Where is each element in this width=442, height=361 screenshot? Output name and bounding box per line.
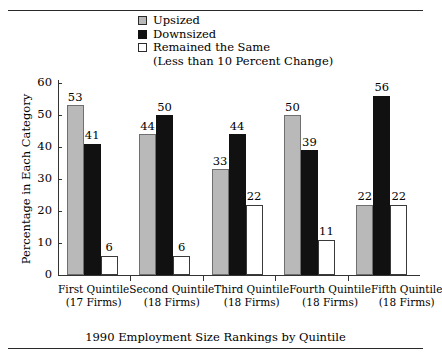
bar-remained-the-same[interactable] — [390, 205, 407, 275]
bar-group: 225622 — [356, 80, 407, 275]
x-axis-label-firms: (18 Firms) — [214, 296, 289, 309]
x-axis-label-name: First Quintile — [58, 283, 129, 296]
bar-value-label: 6 — [178, 242, 185, 254]
x-tick-mark-4 — [348, 276, 349, 281]
bar-value-label: 22 — [391, 191, 406, 203]
y-tick-label-40: 40 — [37, 141, 52, 153]
legend-label-downsized: Downsized — [153, 28, 216, 42]
bar-group: 334422 — [212, 80, 263, 275]
bar-wrapper: 22 — [246, 80, 263, 275]
legend-item-upsized: Upsized — [138, 14, 333, 28]
y-tick-mark-0 — [58, 275, 62, 276]
bar-value-label: 50 — [285, 102, 300, 114]
bar-wrapper: 44 — [229, 80, 246, 275]
legend-swatch-downsized — [138, 30, 147, 39]
bar-value-label: 56 — [374, 82, 389, 94]
y-tick-label-10: 10 — [37, 237, 52, 249]
x-tick-mark-2 — [203, 276, 204, 281]
bar-value-label: 6 — [106, 242, 113, 254]
bar-group: 53416 — [67, 80, 118, 275]
bar-wrapper: 11 — [318, 80, 335, 275]
bar-value-label: 39 — [302, 137, 317, 149]
x-axis-label-group: Second Quintile(18 Firms) — [129, 283, 214, 309]
y-tick-mark-20 — [58, 211, 62, 212]
x-axis-label-name: Third Quintile — [214, 283, 289, 296]
bar-downsized[interactable] — [373, 96, 390, 275]
bar-wrapper: 39 — [301, 80, 318, 275]
legend-item-downsized: Downsized — [138, 28, 333, 42]
bar-downsized[interactable] — [156, 115, 173, 275]
x-axis-line — [58, 275, 420, 276]
plot-area: 5341644506334422503911225622 — [58, 80, 420, 275]
legend-item-remained-same: Remained the Same — [138, 41, 333, 55]
y-tick-label-60: 60 — [37, 77, 52, 89]
legend-note-row: (Less than 10 Percent Change) — [138, 55, 333, 69]
bar-group: 503911 — [284, 80, 335, 275]
bar-value-label: 22 — [247, 191, 262, 203]
legend-label-upsized: Upsized — [153, 14, 200, 28]
x-axis-label-firms: (18 Firms) — [371, 296, 442, 309]
x-axis-label-group: Third Quintile(18 Firms) — [214, 283, 289, 309]
x-axis-label-name: Fifth Quintile — [371, 283, 442, 296]
bar-wrapper: 6 — [173, 80, 190, 275]
bar-upsized[interactable] — [284, 115, 301, 275]
bar-wrapper: 53 — [67, 80, 84, 275]
x-tick-mark-1 — [130, 276, 131, 281]
y-tick-mark-50 — [58, 115, 62, 116]
y-tick-label-30: 30 — [37, 173, 52, 185]
top-divider-rule — [8, 10, 423, 11]
bar-value-label: 50 — [157, 102, 172, 114]
bottom-divider-rule — [8, 348, 423, 349]
y-axis-tick-labels: 6050403020100 — [20, 0, 52, 361]
y-tick-label-50: 50 — [37, 109, 52, 121]
bar-remained-the-same[interactable] — [173, 256, 190, 275]
y-tick-mark-30 — [58, 179, 62, 180]
x-tick-mark-3 — [275, 276, 276, 281]
y-tick-mark-40 — [58, 147, 62, 148]
bar-downsized[interactable] — [84, 144, 101, 275]
x-axis-category-labels: First Quintile(17 Firms)Second Quintile(… — [58, 283, 420, 309]
bar-wrapper: 44 — [139, 80, 156, 275]
x-axis-label-name: Second Quintile — [129, 283, 214, 296]
bar-remained-the-same[interactable] — [246, 205, 263, 275]
bar-value-label: 44 — [140, 121, 155, 133]
bar-group: 44506 — [139, 80, 190, 275]
bar-wrapper: 6 — [101, 80, 118, 275]
y-tick-mark-10 — [58, 243, 62, 244]
legend-swatch-remained-same — [138, 43, 147, 52]
bar-value-label: 41 — [85, 130, 100, 142]
y-tick-label-20: 20 — [37, 205, 52, 217]
bar-value-label: 11 — [319, 226, 334, 238]
bar-value-label: 44 — [230, 121, 245, 133]
bar-upsized[interactable] — [139, 134, 156, 275]
bar-remained-the-same[interactable] — [101, 256, 118, 275]
bar-upsized[interactable] — [67, 105, 84, 275]
bar-upsized[interactable] — [212, 169, 229, 275]
x-axis-label-group: Fourth Quintile(18 Firms) — [289, 283, 371, 309]
bar-value-label: 53 — [68, 92, 83, 104]
bar-wrapper: 22 — [356, 80, 373, 275]
bar-upsized[interactable] — [356, 205, 373, 275]
bar-remained-the-same[interactable] — [318, 240, 335, 275]
legend-swatch-upsized — [138, 16, 147, 25]
x-axis-label-group: First Quintile(17 Firms) — [58, 283, 129, 309]
x-axis-title: 1990 Employment Size Rankings by Quintil… — [0, 330, 431, 344]
bar-wrapper: 50 — [156, 80, 173, 275]
chart-legend: Upsized Downsized Remained the Same (Les… — [138, 14, 333, 68]
bar-wrapper: 33 — [212, 80, 229, 275]
x-axis-label-name: Fourth Quintile — [289, 283, 371, 296]
bar-value-label: 22 — [357, 191, 372, 203]
bar-wrapper: 41 — [84, 80, 101, 275]
y-tick-label-0: 0 — [45, 269, 52, 281]
bar-value-label: 33 — [213, 156, 228, 168]
bar-wrapper: 56 — [373, 80, 390, 275]
bar-wrapper: 50 — [284, 80, 301, 275]
x-axis-label-firms: (18 Firms) — [129, 296, 214, 309]
x-axis-label-group: Fifth Quintile(18 Firms) — [371, 283, 442, 309]
bar-downsized[interactable] — [301, 150, 318, 275]
x-axis-label-firms: (17 Firms) — [58, 296, 129, 309]
bar-downsized[interactable] — [229, 134, 246, 275]
legend-note: (Less than 10 Percent Change) — [153, 55, 333, 69]
x-axis-label-firms: (18 Firms) — [289, 296, 371, 309]
